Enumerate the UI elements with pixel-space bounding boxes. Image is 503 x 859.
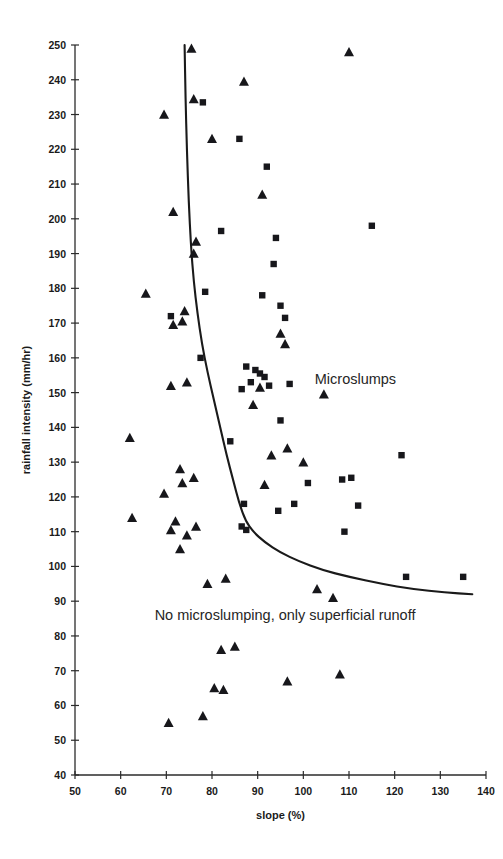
data-point-triangle [198, 711, 208, 720]
y-axis-tick-label: 40 [54, 769, 66, 781]
data-point-triangle [189, 94, 199, 103]
x-axis-title: slope (%) [256, 809, 305, 821]
data-point-triangle [230, 641, 240, 650]
y-axis-tick-label: 130 [48, 456, 66, 468]
data-point-triangle [159, 488, 169, 497]
data-point-triangle [328, 593, 338, 602]
x-axis-tick-label: 90 [252, 785, 264, 797]
data-point-triangle [298, 457, 308, 466]
y-axis-tick-label: 50 [54, 734, 66, 746]
data-point-square [200, 99, 206, 105]
data-point-triangle [164, 718, 174, 727]
x-axis-tick-label: 110 [341, 785, 358, 797]
data-point-triangle [344, 47, 354, 56]
data-point-triangle [175, 464, 185, 473]
y-axis-tick-label: 70 [54, 665, 66, 677]
data-point-triangle [191, 521, 201, 530]
data-point-square [261, 374, 267, 380]
data-point-triangle [191, 236, 201, 245]
data-point-square [259, 292, 265, 298]
data-point-triangle [127, 513, 137, 522]
data-point-square [341, 528, 347, 534]
data-point-square [460, 574, 466, 580]
data-point-triangle [189, 473, 199, 482]
data-point-square [275, 508, 281, 514]
data-point-square [218, 228, 224, 234]
data-point-square [291, 501, 297, 507]
y-axis-tick-label: 60 [54, 699, 66, 711]
y-axis-tick-label: 140 [48, 421, 66, 433]
data-point-triangle [182, 530, 192, 539]
data-point-square [398, 452, 404, 458]
data-point-square [355, 502, 361, 508]
data-point-triangle [125, 433, 135, 442]
data-point-square [282, 315, 288, 321]
data-point-triangle [207, 134, 217, 143]
data-point-triangle [260, 480, 270, 489]
data-point-triangle [175, 544, 185, 553]
data-point-triangle [182, 377, 192, 386]
data-point-triangle [186, 43, 196, 52]
data-point-square [277, 417, 283, 423]
data-point-triangle [166, 381, 176, 390]
data-point-triangle [239, 77, 249, 86]
x-axis-tick-label: 140 [477, 785, 495, 797]
data-point-triangle [248, 400, 258, 409]
annotation-microslumps: Microslumps [315, 371, 396, 387]
y-axis-tick-label: 210 [48, 178, 66, 190]
x-axis-tick-label: 60 [115, 785, 127, 797]
y-axis-tick-label: 90 [54, 595, 66, 607]
data-point-triangle [209, 683, 219, 692]
data-point-triangle [177, 316, 187, 325]
y-axis-tick-label: 110 [49, 526, 66, 538]
data-point-square [202, 289, 208, 295]
data-point-triangle [280, 339, 290, 348]
data-point-triangle [255, 382, 265, 391]
data-point-square [264, 163, 270, 169]
y-axis-tick-label: 250 [48, 39, 66, 51]
data-point-triangle [189, 249, 199, 258]
x-axis-tick-label: 50 [69, 785, 81, 797]
y-axis-tick-label: 120 [48, 491, 66, 503]
scatter-plot-figure: 4050607080901001101201301401501601701801… [0, 0, 503, 859]
data-point-triangle [170, 516, 180, 525]
y-axis-tick-label: 230 [48, 109, 66, 121]
x-axis-tick-label: 70 [160, 785, 172, 797]
y-axis-tick-label: 190 [48, 248, 66, 260]
data-point-triangle [218, 685, 228, 694]
data-point-square [241, 501, 247, 507]
data-point-square [227, 438, 233, 444]
data-point-square [339, 476, 345, 482]
data-point-triangle [159, 110, 169, 119]
y-axis-tick-label: 200 [48, 213, 66, 225]
data-point-triangle [266, 450, 276, 459]
data-point-square [243, 527, 249, 533]
data-point-square [277, 303, 283, 309]
data-point-triangle [312, 584, 322, 593]
x-axis-tick-label: 130 [432, 785, 450, 797]
data-point-triangle [257, 189, 267, 198]
data-point-square [236, 136, 242, 142]
data-point-triangle [216, 645, 226, 654]
data-point-square [369, 223, 375, 229]
plot-canvas: 4050607080901001101201301401501601701801… [0, 0, 503, 859]
data-point-triangle [202, 579, 212, 588]
data-point-square [238, 386, 244, 392]
y-axis-tick-label: 220 [48, 143, 66, 155]
y-axis-tick-label: 180 [48, 282, 66, 294]
data-point-square [266, 382, 272, 388]
data-point-square [168, 313, 174, 319]
y-axis-tick-label: 100 [48, 560, 66, 572]
data-point-triangle [180, 306, 190, 315]
y-axis-tick-label: 240 [48, 74, 66, 86]
data-point-triangle [168, 207, 178, 216]
data-point-triangle [335, 669, 345, 678]
data-point-square [286, 381, 292, 387]
data-point-square [248, 379, 254, 385]
data-point-triangle [141, 289, 151, 298]
y-axis-title: rainfall intensity (mm/hr) [20, 345, 32, 474]
data-point-triangle [166, 525, 176, 534]
data-point-triangle [282, 676, 292, 685]
data-point-triangle [282, 443, 292, 452]
data-point-triangle [168, 320, 178, 329]
